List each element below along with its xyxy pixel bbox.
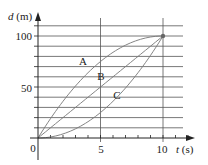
- y-tick-label-50: 50: [21, 82, 33, 94]
- y-axis-label: d (m): [8, 10, 32, 23]
- curve-b-label: B: [97, 70, 104, 82]
- x-axis-unit: (s): [182, 143, 194, 156]
- x-tick-label-10: 10: [157, 143, 169, 155]
- x-tick-label-5: 5: [98, 143, 104, 155]
- y-axis-variable: d: [8, 10, 14, 22]
- endpoint-marker: [161, 34, 165, 38]
- y-axis-unit: (m): [16, 10, 32, 23]
- origin-label: 0: [30, 142, 36, 154]
- y-axis-arrow-icon: [35, 12, 41, 21]
- y-tick-label-100: 100: [16, 30, 33, 42]
- x-axis-variable: t: [176, 143, 180, 155]
- horizontal-gridlines: [38, 26, 183, 128]
- curve-a-label: A: [79, 55, 87, 67]
- x-axis-arrow-icon: [186, 135, 195, 141]
- axis-ticks: [34, 26, 188, 138]
- distance-time-chart: d (m) t (s) 100 50 0 5 10 A B C: [0, 0, 208, 165]
- x-axis-label: t (s): [176, 143, 194, 156]
- curve-c-label: C: [113, 89, 120, 101]
